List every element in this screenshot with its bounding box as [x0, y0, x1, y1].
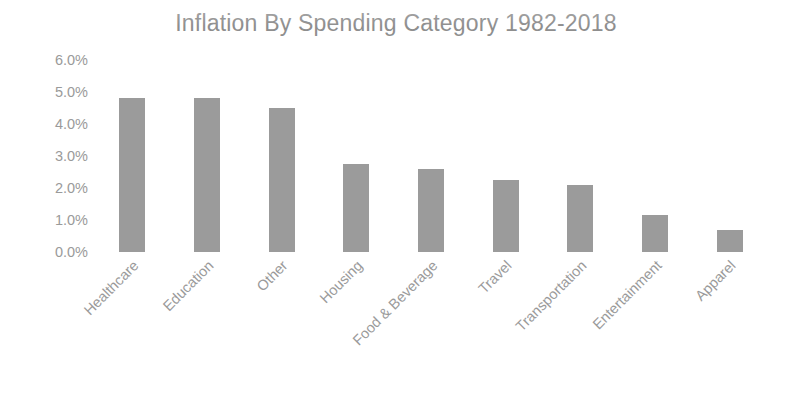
bar[interactable] [493, 180, 519, 252]
y-tick-label: 6.0% [30, 53, 88, 68]
bar[interactable] [717, 230, 743, 252]
x-label-slot: Healthcare [95, 254, 170, 374]
bar-slot [543, 60, 618, 252]
x-tick-label: Housing [317, 258, 366, 307]
bar-slot [244, 60, 319, 252]
bar[interactable] [343, 164, 369, 252]
bar-slot [95, 60, 170, 252]
chart-title: Inflation By Spending Category 1982-2018 [0, 10, 792, 37]
x-tick-label: Apparel [693, 258, 740, 305]
bar-slot [692, 60, 767, 252]
bar[interactable] [194, 98, 220, 252]
x-label-slot: Other [244, 254, 319, 374]
bar-slot [618, 60, 693, 252]
plot-area [95, 60, 767, 252]
x-label-slot: Apparel [692, 254, 767, 374]
y-tick-label: 0.0% [30, 245, 88, 260]
bar-slot [319, 60, 394, 252]
bars-layer [95, 60, 767, 252]
bar-chart: Inflation By Spending Category 1982-2018… [0, 0, 792, 417]
y-tick-label: 2.0% [30, 181, 88, 196]
y-tick-label: 5.0% [30, 85, 88, 100]
bar[interactable] [642, 215, 668, 252]
y-axis: 6.0%5.0%4.0%3.0%2.0%1.0%0.0% [30, 60, 88, 252]
bar-slot [170, 60, 245, 252]
x-tick-label: Travel [476, 258, 515, 297]
bar[interactable] [269, 108, 295, 252]
bar[interactable] [119, 98, 145, 252]
x-label-slot: Entertainment [618, 254, 693, 374]
bar-slot [468, 60, 543, 252]
x-label-slot: Education [170, 254, 245, 374]
y-tick-label: 1.0% [30, 213, 88, 228]
x-label-slot: Food & Beverage [394, 254, 469, 374]
y-tick-label: 4.0% [30, 117, 88, 132]
y-tick-label: 3.0% [30, 149, 88, 164]
bar[interactable] [567, 185, 593, 252]
x-tick-label: Healthcare [81, 258, 142, 319]
x-tick-label: Other [255, 258, 292, 295]
x-axis: HealthcareEducationOtherHousingFood & Be… [95, 254, 767, 374]
bar-slot [394, 60, 469, 252]
bar[interactable] [418, 169, 444, 252]
